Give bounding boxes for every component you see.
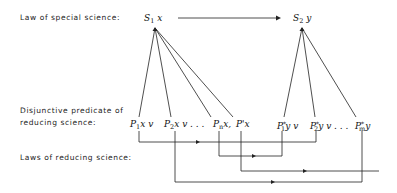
arrowhead-icon [276,16,281,21]
arrowhead-icon [300,27,305,31]
arrowhead-icon [271,180,275,184]
arrowhead-icon [303,169,307,173]
diagram-lines [0,0,397,193]
arrowhead-icon [252,154,256,158]
arrowhead-icon [153,27,158,31]
arrowhead-icon [196,140,200,144]
